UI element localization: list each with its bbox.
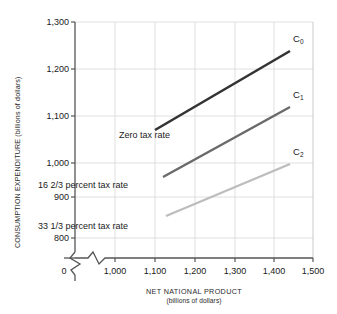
x-axis-subtitle: (billions of dollars) <box>75 297 313 304</box>
y-tick-label-800: 800 <box>14 233 69 243</box>
y-tick-label-1200: 1,200 <box>14 64 69 74</box>
curve-label-c0-subscript: 0 <box>300 38 304 45</box>
y-tick-label-900: 900 <box>14 192 69 202</box>
y-tick-label-1300: 1,300 <box>14 17 69 27</box>
curve-label-c0: C0 <box>293 33 304 44</box>
x-tick-label-0: 0 <box>50 266 78 276</box>
x-tick-label-1500: 1,500 <box>289 266 337 276</box>
y-tick-label-1000: 1,000 <box>14 158 69 168</box>
y-tick-label-1100: 1,100 <box>14 111 69 121</box>
curve-label-c2-subscript: 2 <box>300 151 304 158</box>
curve-label-c2-text: C <box>293 146 300 157</box>
annotation-33-13-percent-tax-rate: 33 1/3 percent tax rate <box>38 221 128 231</box>
curve-label-c1-text: C <box>293 89 300 100</box>
curve-label-c2: C2 <box>293 146 304 157</box>
annotation-16-23-percent-tax-rate: 16 2/3 percent tax rate <box>38 180 128 190</box>
curve-label-c1-subscript: 1 <box>300 94 304 101</box>
curve-label-c1: C1 <box>293 89 304 100</box>
curve-label-c0-text: C <box>293 33 300 44</box>
x-axis-title: NET NATIONAL PRODUCT <box>75 287 313 296</box>
annotation-zero-tax-rate: Zero tax rate <box>119 130 170 140</box>
chart-figure: CONSUMPTION EXPENDITURE (billions of dol… <box>0 0 337 314</box>
